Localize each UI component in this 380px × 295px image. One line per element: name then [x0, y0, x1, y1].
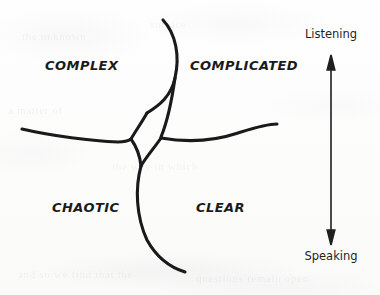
divider-star-lower-left	[131, 139, 141, 166]
axis-arrow-head-down	[327, 230, 335, 245]
axis-arrow-head-up	[327, 55, 335, 70]
axis-label-listening: Listening	[301, 27, 361, 41]
axis-arrow	[327, 55, 335, 245]
axis-label-speaking: Speaking	[301, 249, 361, 263]
divider-arm-left	[22, 129, 131, 142]
diagram-canvas: the unknown surface a matter of the way …	[0, 0, 380, 295]
divider-star-lower-right	[141, 138, 161, 166]
divider-arm-top-branch	[161, 78, 175, 137]
quadrant-label-complicated: COMPLICATED	[190, 58, 298, 73]
divider-star-upper-left	[131, 113, 147, 139]
quadrant-label-complex: COMPLEX	[45, 58, 118, 73]
quadrant-label-clear: CLEAR	[196, 200, 245, 215]
divider-arm-bottom	[137, 166, 185, 272]
divider-arm-right	[161, 124, 277, 141]
quadrant-label-chaotic: CHAOTIC	[52, 200, 120, 215]
